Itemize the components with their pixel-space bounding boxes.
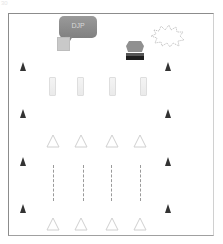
corner-label: 30: [1, 0, 8, 6]
dashed-line: [140, 165, 141, 201]
starburst-icon: [150, 24, 185, 48]
podium-icon: [125, 40, 145, 62]
rectangle-icon: [77, 77, 84, 96]
rectangle-icon: [140, 77, 147, 96]
dashed-line: [53, 165, 54, 201]
cone-icon: [20, 109, 26, 118]
rectangle-icon: [109, 77, 116, 96]
triangle-icon: [105, 134, 119, 148]
dashed-line: [83, 165, 84, 201]
cone-icon: [20, 62, 26, 71]
cone-icon: [20, 204, 26, 213]
triangle-icon: [74, 134, 88, 148]
triangle-icon: [133, 217, 147, 231]
triangle-icon: [105, 217, 119, 231]
dashed-line: [111, 165, 112, 201]
triangle-icon: [46, 134, 60, 148]
cone-icon: [165, 62, 171, 71]
square-icon: [57, 37, 70, 51]
rectangle-icon: [49, 77, 56, 96]
triangle-icon: [74, 217, 88, 231]
triangle-icon: [133, 134, 147, 148]
triangle-icon: [46, 217, 60, 231]
cone-icon: [165, 157, 171, 166]
cone-icon: [165, 109, 171, 118]
cone-icon: [20, 157, 26, 166]
cone-icon: [165, 204, 171, 213]
speech-bubble-label: DJP: [59, 22, 97, 29]
